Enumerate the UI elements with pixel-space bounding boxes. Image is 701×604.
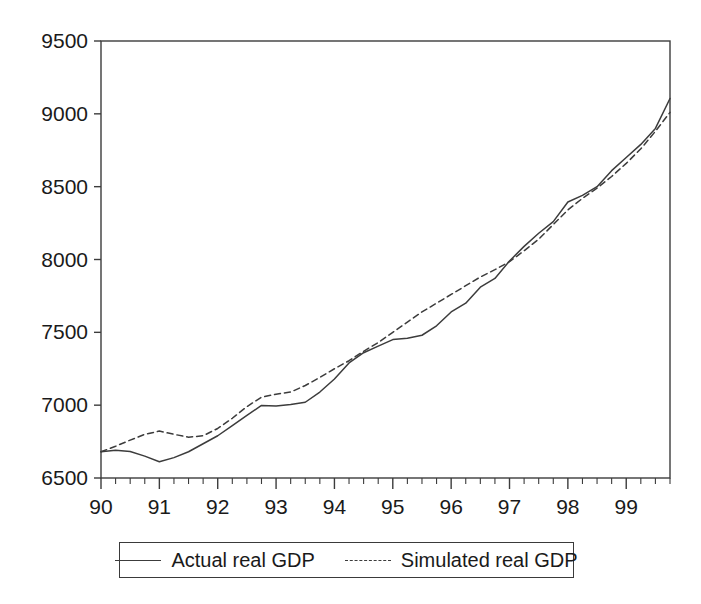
legend-label-simulated-real-gdp: Simulated real GDP: [401, 549, 578, 572]
x-tick-label: 99: [615, 495, 638, 518]
legend-swatch-solid-line: [115, 560, 161, 561]
x-tick-label: 91: [148, 495, 171, 518]
x-tick-label: 95: [381, 495, 404, 518]
x-tick-label: 90: [89, 495, 112, 518]
legend-item-simulated-real-gdp: Simulated real GDP: [345, 549, 578, 572]
y-tick-label: 9000: [41, 102, 88, 125]
data-series-layer: [101, 99, 670, 462]
chart-canvas: 6500700075008000850090009500 90919293949…: [0, 0, 701, 604]
y-tick-label: 7000: [41, 393, 88, 416]
y-tick-label: 8000: [41, 248, 88, 271]
axis-frame: [101, 41, 670, 478]
x-tick-label: 94: [323, 495, 347, 518]
x-tick-label: 98: [556, 495, 579, 518]
y-tick-label: 9500: [41, 29, 88, 52]
legend-item-actual-real-gdp: Actual real GDP: [115, 549, 314, 572]
y-axis-ticks: 6500700075008000850090009500: [41, 29, 101, 489]
x-tick-label: 96: [439, 495, 462, 518]
x-tick-label: 97: [498, 495, 521, 518]
y-tick-label: 7500: [41, 320, 88, 343]
x-axis-ticks: 90919293949596979899: [89, 478, 670, 518]
y-tick-label: 8500: [41, 175, 88, 198]
x-tick-label: 93: [264, 495, 287, 518]
series-line-simulated-real-gdp: [101, 112, 670, 451]
x-tick-label: 92: [206, 495, 229, 518]
y-tick-label: 6500: [41, 466, 88, 489]
chart-legend: Actual real GDP Simulated real GDP: [119, 542, 574, 578]
plot-border: [101, 41, 670, 478]
series-line-actual-real-gdp: [101, 99, 670, 462]
legend-swatch-dashed-line: [345, 560, 391, 561]
gdp-comparison-figure: 6500700075008000850090009500 90919293949…: [0, 0, 701, 604]
legend-label-actual-real-gdp: Actual real GDP: [171, 549, 314, 572]
